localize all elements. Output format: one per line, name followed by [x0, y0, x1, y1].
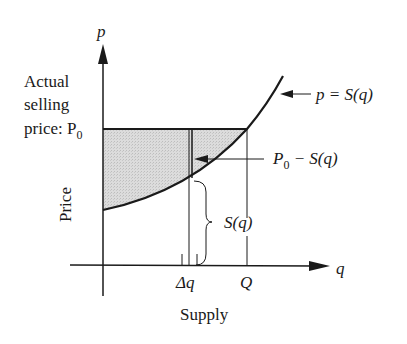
price-label-line-3: price: P0: [24, 119, 82, 142]
producer-surplus-figure: p q p = S(q) Actual selling price: P0 P0…: [0, 0, 407, 344]
price-label-sub: 0: [76, 128, 82, 142]
x-axis: [70, 265, 316, 266]
y-axis-label: p: [96, 22, 106, 41]
x-axis-title: Supply: [180, 305, 229, 324]
curve-label: p = S(q): [315, 85, 373, 104]
surplus-shaded-region: [103, 129, 247, 210]
s-of-q-brace: [194, 181, 212, 265]
price-label-line-1: Actual: [24, 72, 70, 91]
price-label-text: price: P: [24, 119, 76, 138]
difference-label: P0 − S(q): [272, 149, 338, 172]
difference-label-p: P: [272, 149, 283, 168]
x-tick-delta-q: Δq: [175, 273, 195, 292]
price-label-line-2: selling: [24, 95, 70, 114]
x-tick-q: Q: [240, 273, 252, 292]
difference-label-rest: − S(q): [289, 149, 338, 168]
y-axis-arrow-icon: [98, 44, 108, 64]
x-axis-label: q: [336, 259, 345, 278]
curve-label-arrow-icon: [280, 90, 293, 98]
strip-height-label: S(q): [224, 213, 253, 232]
y-axis-title: Price: [56, 187, 75, 222]
x-axis-arrow-icon: [309, 261, 330, 271]
